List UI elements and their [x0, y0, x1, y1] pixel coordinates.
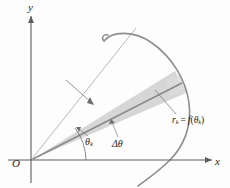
y-axis-arrowhead: [28, 16, 34, 23]
delta-theta-leader: [112, 122, 118, 137]
radial-ray: [33, 83, 182, 159]
sector-pointer-arrowhead: [87, 97, 94, 105]
curve-eq-r-subscript: k: [176, 118, 179, 125]
polar-sector-figure: y x O θk Δθ rk=f(θk): [0, 0, 230, 188]
theta-k-subscript: k: [90, 140, 93, 147]
x-axis-arrowhead: [205, 157, 212, 163]
origin-label: O: [12, 158, 20, 169]
figure-canvas: [0, 0, 230, 188]
shaded-sector: [31, 71, 186, 160]
delta-theta-label: Δθ: [112, 139, 123, 149]
curve-eq-equals: =: [180, 115, 185, 125]
x-axis-label: x: [215, 156, 220, 167]
curve-eq-paren-close: ): [201, 115, 204, 125]
curve-equation-label: rk=f(θk): [172, 116, 204, 126]
y-axis-label: y: [28, 2, 33, 13]
theta-k-label: θk: [85, 137, 93, 148]
